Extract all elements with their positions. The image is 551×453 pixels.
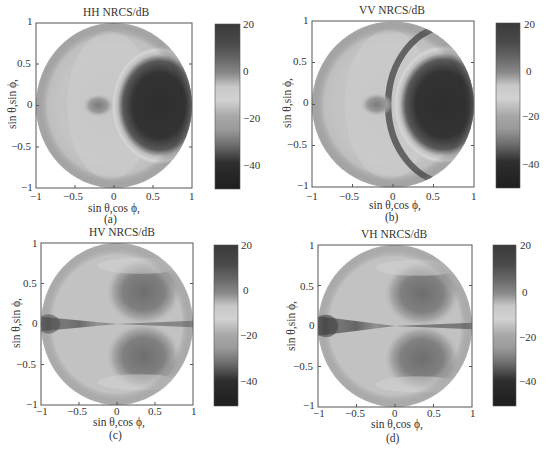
- ytick: 0: [32, 317, 38, 329]
- colorbar-tick: −40: [240, 375, 257, 387]
- panel-vh: VH NRCS/dB 1 0.5 0 −0.5 −1 −1 −0.5: [275, 225, 551, 453]
- colorbar-tick: 20: [241, 239, 252, 251]
- ytick: 1: [309, 239, 315, 251]
- x-axis-label: sin θ,cos ϕ,: [371, 418, 423, 430]
- colorbar-tick: −40: [522, 158, 539, 170]
- xtick: 0.5: [146, 190, 160, 202]
- xtick: 0: [111, 190, 117, 202]
- colorbar-tick: 20: [524, 18, 535, 30]
- xtick: 0.5: [427, 407, 441, 419]
- xtick: 1: [470, 407, 476, 419]
- y-axis-label: sin θ,sin ϕ,: [281, 63, 293, 143]
- colorbar-tick: 0: [526, 65, 532, 77]
- x-axis-label: sin θ,cos ϕ,: [369, 199, 421, 211]
- panel-caption: (a): [104, 213, 117, 225]
- colorbar-tick: −20: [522, 110, 539, 122]
- ytick: 1: [303, 14, 309, 26]
- xtick: −1: [30, 190, 42, 202]
- ytick: 0: [303, 96, 309, 108]
- colorbar-hv: [214, 245, 238, 406]
- colorbar-tick: 20: [243, 18, 254, 30]
- y-axis-label: sin θ,sin ϕ,: [10, 283, 22, 363]
- xtick: −0.5: [63, 190, 83, 202]
- xtick: −1: [313, 407, 325, 419]
- y-axis-label: sin θ,sin ϕ,: [285, 286, 297, 366]
- ytick: 0.5: [293, 55, 307, 67]
- colorbar-vv: [496, 23, 520, 188]
- colorbar-tick: −20: [519, 331, 536, 343]
- colorbar-tick: −40: [519, 375, 536, 387]
- xtick: 1: [191, 405, 197, 417]
- xtick: −0.5: [339, 190, 359, 202]
- colorbar-tick: −40: [243, 159, 260, 171]
- xtick: −0.5: [345, 407, 365, 419]
- ytick: 0.5: [17, 57, 31, 69]
- colorbar-tick: −20: [243, 112, 260, 124]
- xtick: 0.5: [426, 190, 440, 202]
- xtick: −1: [36, 405, 48, 417]
- panel-caption: (b): [385, 211, 398, 223]
- panel-hh: HH NRCS/dB 1 0.5 0 −0.5 −1 −1 −0.5 0 0.5…: [0, 0, 275, 226]
- colorbar-tick: 20: [520, 239, 531, 251]
- xtick: −0.5: [67, 405, 87, 417]
- colorbar-tick: −20: [240, 329, 257, 341]
- ytick: 0.5: [300, 280, 314, 292]
- xtick: 1: [189, 190, 195, 202]
- xtick: −1: [306, 190, 318, 202]
- colorbar-hh: [215, 24, 240, 189]
- colorbar-tick: 0: [243, 65, 249, 77]
- ytick: 0: [27, 98, 33, 110]
- colorbar-tick: 0: [522, 286, 528, 298]
- ytick: 1: [32, 237, 38, 249]
- panel-caption: (d): [386, 432, 399, 444]
- ytick: 0.5: [23, 277, 37, 289]
- xtick: 1: [471, 190, 477, 202]
- panel-vv: VV NRCS/dB 1 0.5 0 −0.5 −1 −1 −0.5 0 0.5…: [275, 0, 551, 226]
- panel-caption: (c): [109, 429, 122, 441]
- y-axis-label: sin θ,sin ϕ,: [6, 64, 18, 144]
- ytick: 1: [27, 15, 33, 27]
- xtick: 0.5: [148, 405, 162, 417]
- ytick: 0: [309, 319, 315, 331]
- x-axis-label: sin θ,cos ϕ,: [93, 416, 145, 428]
- colorbar-vh: [493, 245, 516, 406]
- colorbar-tick: 0: [243, 284, 249, 296]
- panel-hv: HV NRCS/dB 1 0.5 0 −0.5 −1 −1 −0.5: [0, 225, 275, 453]
